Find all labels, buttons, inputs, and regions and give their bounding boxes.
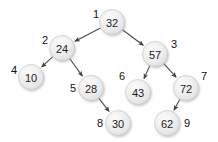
tree-node-62[interactable]: 62: [155, 111, 180, 136]
tree-edge-24-to-28: [70, 59, 83, 77]
node-value-24: 24: [56, 43, 68, 55]
node-value-62: 62: [161, 118, 173, 130]
tree-edge-32-to-57: [122, 30, 143, 45]
tree-node-43[interactable]: 43: [126, 80, 151, 105]
tree-node-30[interactable]: 30: [106, 111, 131, 136]
tree-node-57[interactable]: 57: [143, 42, 168, 67]
node-value-32: 32: [106, 17, 118, 29]
tree-node-10[interactable]: 10: [19, 65, 44, 90]
tree-edge-24-to-10: [42, 57, 53, 67]
node-value-30: 30: [112, 118, 124, 130]
tree-edge-32-to-24: [75, 28, 100, 41]
node-index-label-9: 9: [184, 117, 190, 129]
binary-tree-diagram: 322457102843723062 123456789: [0, 0, 218, 142]
node-value-10: 10: [25, 72, 37, 84]
node-index-label-4: 4: [11, 64, 17, 76]
node-value-72: 72: [180, 83, 192, 95]
node-value-57: 57: [149, 49, 161, 61]
node-index-label-7: 7: [201, 70, 207, 82]
tree-edge-72-to-62: [174, 99, 180, 110]
node-index-label-6: 6: [119, 70, 125, 82]
node-index-label-3: 3: [171, 38, 177, 50]
tree-node-24[interactable]: 24: [50, 36, 75, 61]
node-value-28: 28: [85, 83, 97, 95]
node-index-label-8: 8: [97, 117, 103, 129]
node-index-label-2: 2: [42, 34, 48, 46]
tree-node-32[interactable]: 32: [100, 10, 125, 35]
tree-node-28[interactable]: 28: [79, 76, 104, 101]
tree-canvas: 322457102843723062 123456789: [0, 0, 218, 142]
tree-edge-57-to-43: [144, 66, 150, 79]
node-index-label-5: 5: [70, 82, 76, 94]
node-index-label-1: 1: [93, 8, 99, 20]
tree-edge-28-to-30: [99, 98, 109, 111]
tree-edge-57-to-72: [164, 64, 176, 78]
node-value-43: 43: [132, 87, 144, 99]
tree-node-72[interactable]: 72: [174, 76, 199, 101]
